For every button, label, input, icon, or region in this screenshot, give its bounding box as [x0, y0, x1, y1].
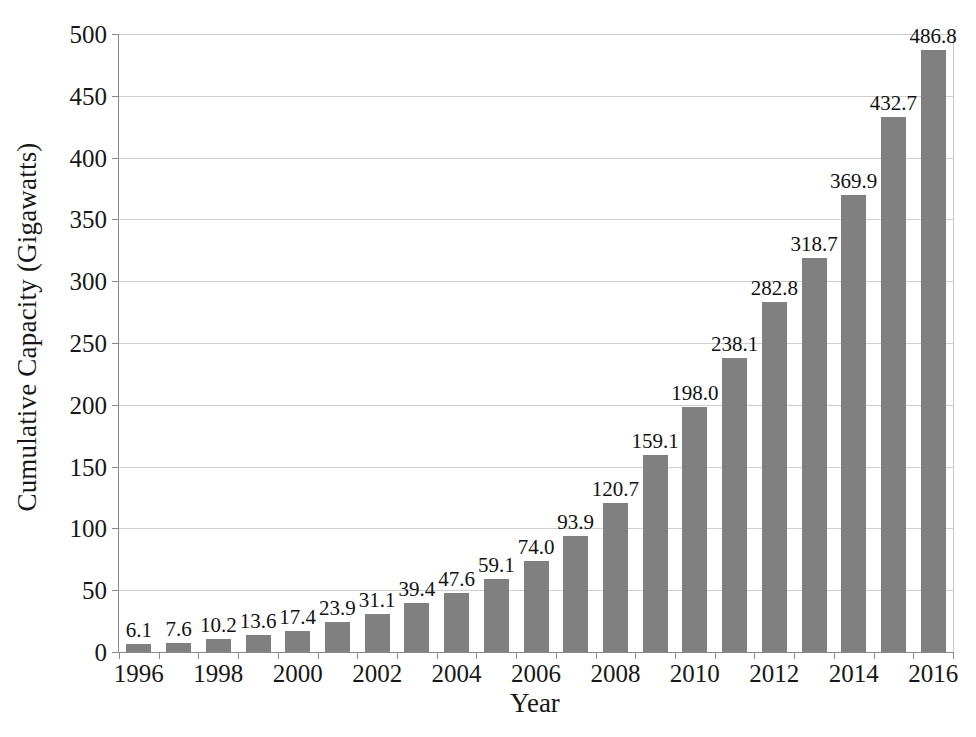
- bar: 39.4: [404, 603, 429, 652]
- x-axis-tick-label: 2008: [590, 661, 640, 686]
- x-axis-tick-label: 2010: [670, 661, 720, 686]
- x-axis-tick-label: 2014: [829, 661, 879, 686]
- bar-value-label: 31.1: [359, 590, 396, 611]
- y-axis-tick-label: 150: [70, 454, 108, 479]
- y-axis-tick-label: 250: [70, 331, 108, 356]
- bar-value-label: 486.8: [910, 26, 957, 47]
- x-axis-tick-label: 2016: [908, 661, 958, 686]
- x-axis-tick: [675, 652, 676, 659]
- x-axis-tick: [715, 652, 716, 659]
- bar: 486.8: [921, 50, 946, 652]
- y-axis-tick-label: 350: [70, 207, 108, 232]
- gridline: [119, 96, 953, 97]
- gridline: [119, 343, 953, 344]
- x-axis-tick: [794, 652, 795, 659]
- x-axis-tick-label: 2004: [432, 661, 482, 686]
- y-axis-tick-label: 50: [82, 578, 107, 603]
- gridline: [119, 34, 953, 35]
- y-axis-tick: [112, 528, 119, 529]
- bar-value-label: 198.0: [671, 383, 718, 404]
- bar: 6.1: [126, 644, 151, 652]
- y-axis-title: Cumulative Capacity (Gigawatts): [12, 0, 46, 657]
- x-axis-tick: [635, 652, 636, 659]
- bar-value-label: 238.1: [711, 334, 758, 355]
- x-axis-tick-label: 2012: [749, 661, 799, 686]
- x-axis-tick-label: 1996: [114, 661, 164, 686]
- bar: 369.9: [841, 195, 866, 652]
- y-axis-tick: [112, 34, 119, 35]
- bar: 10.2: [206, 639, 231, 652]
- y-axis-tick: [112, 96, 119, 97]
- y-axis-tick-label: 450: [70, 83, 108, 108]
- x-axis-tick: [278, 652, 279, 659]
- x-axis-tick: [556, 652, 557, 659]
- bar: 198.0: [682, 407, 707, 652]
- y-axis-tick: [112, 590, 119, 591]
- x-axis-tick: [357, 652, 358, 659]
- bar: 13.6: [246, 635, 271, 652]
- bar: 74.0: [524, 561, 549, 652]
- bar: 120.7: [603, 503, 628, 652]
- bar-value-label: 93.9: [557, 512, 594, 533]
- x-axis-tick: [596, 652, 597, 659]
- gridline: [119, 219, 953, 220]
- bar: 7.6: [166, 643, 191, 652]
- y-axis-tick-label: 200: [70, 392, 108, 417]
- y-axis-tick-label: 300: [70, 269, 108, 294]
- bar: 93.9: [563, 536, 588, 652]
- x-axis-tick: [834, 652, 835, 659]
- bar-value-label: 23.9: [319, 598, 356, 619]
- y-axis-tick-label: 0: [95, 640, 108, 665]
- y-axis-tick: [112, 343, 119, 344]
- y-axis-tick: [112, 158, 119, 159]
- x-axis-tick-label: 1998: [193, 661, 243, 686]
- bar-value-label: 7.6: [165, 619, 191, 640]
- bar-value-label: 6.1: [126, 620, 152, 641]
- x-axis-tick-label: 2000: [273, 661, 323, 686]
- bar-value-label: 17.4: [279, 607, 316, 628]
- gridline: [119, 467, 953, 468]
- bar-value-label: 318.7: [790, 234, 837, 255]
- x-axis-tick-label: 2002: [352, 661, 402, 686]
- gridline: [119, 528, 953, 529]
- bar-value-label: 74.0: [518, 537, 555, 558]
- bar-value-label: 369.9: [830, 171, 877, 192]
- x-axis-tick: [953, 652, 954, 659]
- bar-value-label: 120.7: [592, 479, 639, 500]
- x-axis-tick: [318, 652, 319, 659]
- bar-value-label: 159.1: [632, 431, 679, 452]
- bar: 59.1: [484, 579, 509, 652]
- y-axis-tick: [112, 281, 119, 282]
- bar-value-label: 282.8: [751, 278, 798, 299]
- y-axis-tick-label: 100: [70, 516, 108, 541]
- bar-value-label: 47.6: [438, 569, 475, 590]
- x-axis-tick: [913, 652, 914, 659]
- y-axis-tick: [112, 467, 119, 468]
- x-axis-tick: [476, 652, 477, 659]
- bar-value-label: 39.4: [398, 579, 435, 600]
- x-axis-tick: [874, 652, 875, 659]
- plot-area: 0501001502002503003504004505006.17.610.2…: [118, 34, 954, 653]
- bar: 31.1: [365, 614, 390, 652]
- bar: 282.8: [762, 302, 787, 652]
- y-axis-tick-label: 400: [70, 145, 108, 170]
- y-axis-tick: [112, 405, 119, 406]
- bar: 47.6: [444, 593, 469, 652]
- y-axis-tick: [112, 219, 119, 220]
- y-axis-tick: [112, 652, 119, 653]
- x-axis-tick: [198, 652, 199, 659]
- gridline: [119, 281, 953, 282]
- bar: 17.4: [285, 631, 310, 653]
- bar: 238.1: [722, 358, 747, 652]
- y-axis-tick-label: 500: [70, 22, 108, 47]
- x-axis-tick: [238, 652, 239, 659]
- x-axis-tick-label: 2006: [511, 661, 561, 686]
- bar: 23.9: [325, 622, 350, 652]
- gridline: [119, 405, 953, 406]
- x-axis-tick: [159, 652, 160, 659]
- bar-value-label: 10.2: [200, 615, 237, 636]
- bar: 432.7: [881, 117, 906, 652]
- bar-value-label: 13.6: [240, 611, 277, 632]
- x-axis-tick: [437, 652, 438, 659]
- bar-chart: Cumulative Capacity (Gigawatts) 05010015…: [0, 0, 976, 737]
